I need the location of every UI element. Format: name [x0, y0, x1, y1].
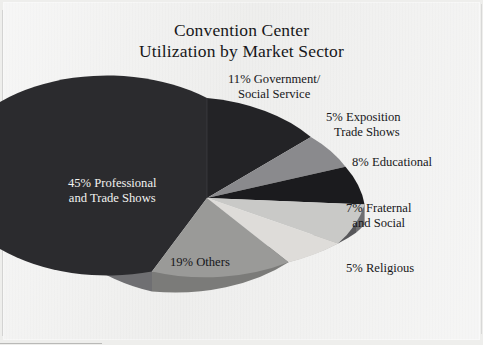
- pie-chart-3d: [0, 0, 483, 345]
- slice-label-professional-line-1: 45% Professional: [68, 176, 157, 190]
- slice-label-exposition-line-1: 5% Exposition: [326, 110, 401, 124]
- slice-label-exposition: 5% Exposition Trade Shows: [326, 110, 401, 141]
- slice-label-government: 11% Government/ Social Service: [228, 72, 320, 103]
- slice-label-religious-line-1: 5% Religious: [346, 261, 414, 275]
- chart-figure: Convention Center Utilization by Market …: [0, 0, 483, 345]
- slice-label-educational: 8% Educational: [352, 155, 432, 170]
- slice-label-educational-line-1: 8% Educational: [352, 155, 432, 169]
- pie-top-face: [0, 76, 365, 278]
- slice-label-fraternal: 7% Fraternal and Social: [346, 201, 411, 232]
- slice-label-professional: 45% Professional and Trade Shows: [68, 176, 157, 207]
- slice-label-professional-line-2: and Trade Shows: [68, 191, 157, 206]
- slice-label-others: 19% Others: [170, 255, 230, 270]
- slice-label-government-line-2: Social Service: [228, 87, 320, 102]
- slice-label-government-line-1: 11% Government/: [228, 72, 320, 87]
- slice-label-fraternal-line-2: and Social: [346, 216, 411, 231]
- slice-label-religious: 5% Religious: [346, 261, 414, 276]
- slice-label-exposition-line-2: Trade Shows: [326, 125, 401, 140]
- slice-label-others-line-1: 19% Others: [170, 255, 230, 269]
- slice-label-fraternal-line-1: 7% Fraternal: [346, 201, 411, 216]
